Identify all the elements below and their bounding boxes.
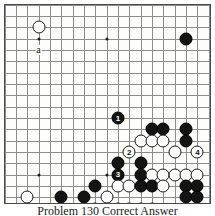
go-board[interactable]: 1243 a [4, 4, 211, 204]
grid-line-vertical [5, 5, 6, 203]
black-stone[interactable] [180, 32, 193, 45]
point-label-a: a [35, 45, 41, 55]
black-stone[interactable] [191, 191, 204, 204]
white-stone[interactable] [21, 191, 34, 204]
black-stone[interactable] [55, 191, 68, 204]
star-point [105, 173, 108, 176]
white-stone[interactable] [157, 134, 170, 147]
figure-caption: Problem 130 Correct Answer [0, 204, 215, 216]
white-stone[interactable] [157, 180, 170, 193]
grid-line-vertical [95, 5, 96, 203]
black-stone[interactable] [89, 180, 102, 193]
white-stone[interactable] [100, 191, 113, 204]
numbered-move-stone[interactable]: 4 [191, 146, 204, 159]
grid-line-vertical [27, 5, 28, 203]
black-stone[interactable] [180, 134, 193, 147]
move-number: 3 [116, 171, 120, 179]
white-stone[interactable] [168, 146, 181, 159]
star-point [105, 37, 108, 40]
numbered-move-stone[interactable]: 2 [123, 146, 136, 159]
numbered-move-stone[interactable]: 1 [112, 112, 125, 125]
grid-line-vertical [209, 5, 210, 203]
grid-line-vertical [73, 5, 74, 203]
star-point [37, 173, 40, 176]
grid-line-vertical [84, 5, 85, 203]
grid-line-vertical [50, 5, 51, 203]
grid-line-vertical [16, 5, 17, 203]
grid-line-vertical [61, 5, 62, 203]
grid-line-vertical [129, 5, 130, 203]
white-stone[interactable] [32, 21, 45, 34]
move-number: 2 [127, 148, 131, 156]
move-number: 4 [195, 148, 199, 156]
go-problem-figure: 1243 a Problem 130 Correct Answer [0, 0, 215, 216]
star-point [37, 37, 40, 40]
move-number: 1 [116, 114, 120, 122]
